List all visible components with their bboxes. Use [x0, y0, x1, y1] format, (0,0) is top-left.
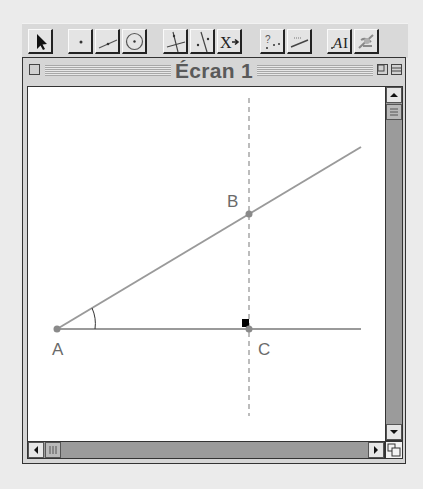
measure-tool-button[interactable] [287, 29, 312, 54]
arrow-left-icon [29, 443, 43, 457]
arrow-right-icon [369, 443, 383, 457]
arrow-down-icon [387, 425, 401, 439]
grip-icon [46, 443, 60, 457]
segment-tool-button[interactable] [95, 29, 120, 54]
measure-icon [288, 30, 311, 53]
scroll-right-button[interactable] [368, 442, 384, 458]
drawing-canvas[interactable]: A B C [27, 86, 385, 441]
line-AB[interactable] [57, 147, 361, 329]
point-tool-button[interactable] [68, 29, 93, 54]
label-C[interactable]: C [258, 340, 270, 360]
horizontal-scroll-thumb[interactable] [45, 442, 61, 458]
label-A[interactable]: A [52, 340, 63, 360]
document-window: Écran 1 A B C [22, 57, 406, 464]
resize-icon [386, 442, 402, 458]
circle-icon [123, 30, 146, 53]
collapse-box[interactable] [391, 64, 402, 75]
scroll-down-button[interactable] [386, 424, 402, 440]
perpendicular-tool-button[interactable] [163, 29, 188, 54]
svg-text:A: A [332, 35, 343, 51]
segment-icon [96, 30, 119, 53]
text-tool-button[interactable]: AI [327, 29, 352, 54]
zoom-box[interactable] [377, 64, 388, 75]
grip-icon [387, 105, 401, 119]
arrow-pointer-icon [29, 30, 52, 53]
vertical-scrollbar[interactable] [385, 86, 403, 441]
collapse-icon [391, 64, 402, 75]
transformation-tool-button[interactable]: X [217, 29, 242, 54]
display-attributes-icon [355, 30, 378, 53]
arrow-up-icon [387, 88, 401, 102]
angle-arc-A [92, 308, 95, 329]
point-B[interactable] [246, 211, 253, 218]
label-B[interactable]: B [227, 192, 238, 212]
perpendicular-icon [164, 30, 187, 53]
scroll-up-button[interactable] [386, 87, 402, 103]
horizontal-scrollbar[interactable] [27, 441, 385, 459]
svg-text:I: I [343, 35, 348, 51]
circle-tool-button[interactable] [122, 29, 147, 54]
vertical-scroll-thumb[interactable] [386, 104, 402, 120]
properties-tool-button[interactable]: ? [260, 29, 285, 54]
check-property-icon: ? [261, 30, 284, 53]
parallel-tool-button[interactable] [190, 29, 215, 54]
geometry-figure [27, 86, 385, 441]
zoom-icon [377, 64, 388, 75]
svg-text:?: ? [265, 34, 271, 45]
toolbar: X ? AI [22, 23, 408, 58]
point-C[interactable] [246, 326, 253, 333]
close-box[interactable] [29, 64, 40, 75]
parallel-icon [191, 30, 214, 53]
scroll-left-button[interactable] [28, 442, 44, 458]
pointer-tool-button[interactable] [28, 29, 53, 54]
display-tool-button[interactable] [354, 29, 379, 54]
text-label-icon: AI [328, 30, 351, 53]
title-bar[interactable]: Écran 1 [23, 58, 405, 84]
transform-icon: X [218, 30, 241, 53]
point-icon [69, 30, 92, 53]
point-A[interactable] [54, 326, 61, 333]
resize-grow-box[interactable] [385, 441, 403, 459]
svg-text:X: X [220, 34, 232, 51]
title-stripes [45, 65, 373, 76]
